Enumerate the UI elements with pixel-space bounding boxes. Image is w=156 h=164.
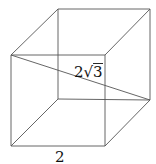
connecting-edge-bottom-right	[105, 100, 150, 146]
diagonal-label: 2√3	[74, 63, 103, 81]
connecting-edge-top-right	[105, 9, 150, 55]
back-bottom-edge	[58, 99, 150, 100]
cube-diagram: 2√3 2	[0, 0, 156, 164]
diagonal-label-coefficient: 2	[74, 63, 84, 81]
connecting-edge-top-left	[11, 9, 58, 55]
edge-length-label: 2	[55, 148, 65, 164]
radical-sign: √	[84, 63, 94, 81]
connecting-edge-bottom-left	[11, 99, 58, 146]
diagonal-label-radicand: 3	[93, 63, 103, 81]
